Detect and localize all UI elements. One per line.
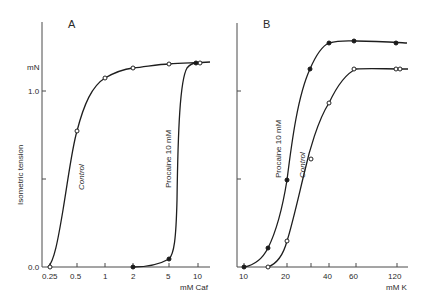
x-tick-label: 2 [131,272,136,281]
x-tick-label: 1 [103,272,108,281]
x-tick-label: 10 [239,272,248,281]
panel-a-control-markers [48,61,202,269]
x-tick-label: 0.5 [70,272,82,281]
y-unit-label: mN [27,63,40,72]
panel-a-control-curve [48,62,210,267]
x-tick-label: 40 [323,272,332,281]
x-tick-label: 120 [388,272,402,281]
panel-a-procaine-label: Procaine 10 mM [164,129,173,188]
figure: A mN 1.0 0.0 Isometric tension 0.25 0.5 … [0,0,426,305]
panel-a-x-ticks [50,263,198,267]
panel-a-x-axis-title: mM Caf [180,283,209,292]
panel-b: B 10 20 40 60 120 mM K [237,18,408,292]
panel-b-x-axis-title: mM K [386,283,408,292]
y-tick-label-zero: 0.0 [28,263,40,272]
panel-b-procaine-curve [244,41,407,267]
x-tick-label: 60 [349,272,358,281]
panel-b-control-markers [266,67,402,269]
y-axis-title: Isometric tension [16,145,25,205]
x-tick-label: 5 [166,272,171,281]
panel-b-label: B [263,18,270,30]
panel-b-procaine-label: Procaine 10 mM [274,119,283,178]
panel-a: A mN 1.0 0.0 Isometric tension 0.25 0.5 … [16,18,210,292]
x-tick-label: 0.25 [42,272,58,281]
panel-b-control-label: Control [298,152,307,178]
panel-a-control-label: Control [77,164,86,190]
y-tick-label-top: 1.0 [28,87,40,96]
x-tick-label: 10 [193,272,202,281]
x-tick-label: 20 [281,272,290,281]
panel-a-label: A [68,18,76,30]
panel-b-procaine-markers [242,39,398,269]
